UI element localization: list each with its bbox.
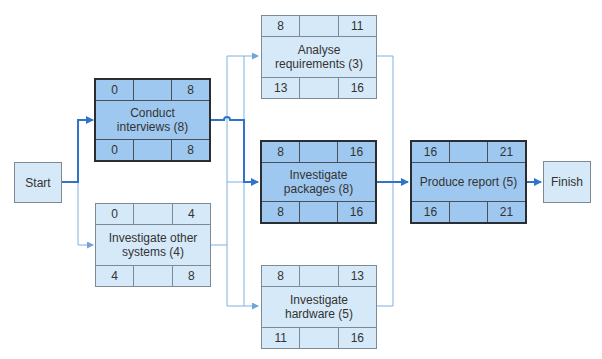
early-finish: 8	[171, 80, 209, 100]
activity-label: Investigate other systems (4)	[96, 225, 210, 265]
blank-cell	[449, 142, 487, 162]
late-finish: 8	[171, 140, 209, 160]
late-start: 8	[262, 202, 299, 222]
late-start: 13	[262, 78, 299, 98]
start-node: Start	[14, 162, 62, 203]
activity-investigate-hardware: 813 Investigate hardware (5) 1116	[261, 265, 377, 349]
activity-label: Investigate packages (8)	[262, 163, 375, 201]
late-start: 4	[96, 266, 133, 286]
finish-node: Finish	[543, 161, 591, 203]
late-finish: 16	[338, 328, 376, 348]
activity-investigate-other-systems: 04 Investigate other systems (4) 48	[95, 203, 211, 287]
start-label: Start	[25, 176, 50, 190]
early-start: 8	[262, 142, 299, 162]
late-finish: 16	[337, 202, 375, 222]
late-finish: 21	[487, 202, 525, 222]
activity-investigate-packages: 816 Investigate packages (8) 816	[260, 140, 377, 224]
activity-label: Analyse requirements (3)	[262, 37, 376, 77]
early-finish: 13	[338, 266, 376, 286]
blank-cell	[299, 142, 337, 162]
blank-cell	[299, 266, 337, 286]
activity-label: Produce report (5)	[412, 163, 525, 201]
early-finish: 11	[338, 16, 376, 36]
blank-cell	[299, 202, 337, 222]
early-start: 0	[96, 80, 133, 100]
blank-cell	[133, 140, 171, 160]
activity-label: Conduct interviews (8)	[96, 101, 209, 139]
blank-cell	[299, 78, 337, 98]
late-start: 11	[262, 328, 299, 348]
blank-cell	[449, 202, 487, 222]
early-finish: 21	[487, 142, 525, 162]
late-finish: 16	[338, 78, 376, 98]
early-finish: 16	[337, 142, 375, 162]
finish-label: Finish	[551, 175, 583, 189]
late-finish: 8	[172, 266, 210, 286]
activity-analyse-requirements: 811 Analyse requirements (3) 1316	[261, 15, 377, 99]
blank-cell	[133, 204, 171, 224]
activity-produce-report: 1621 Produce report (5) 1621	[410, 140, 527, 224]
early-start: 8	[262, 16, 299, 36]
early-start: 0	[96, 204, 133, 224]
late-start: 0	[96, 140, 133, 160]
blank-cell	[133, 266, 171, 286]
blank-cell	[299, 16, 337, 36]
blank-cell	[133, 80, 171, 100]
activity-label: Investigate hardware (5)	[262, 287, 376, 327]
blank-cell	[299, 328, 337, 348]
early-start: 16	[412, 142, 449, 162]
early-finish: 4	[172, 204, 210, 224]
late-start: 16	[412, 202, 449, 222]
activity-conduct-interviews: 08 Conduct interviews (8) 08	[94, 78, 211, 162]
early-start: 8	[262, 266, 299, 286]
